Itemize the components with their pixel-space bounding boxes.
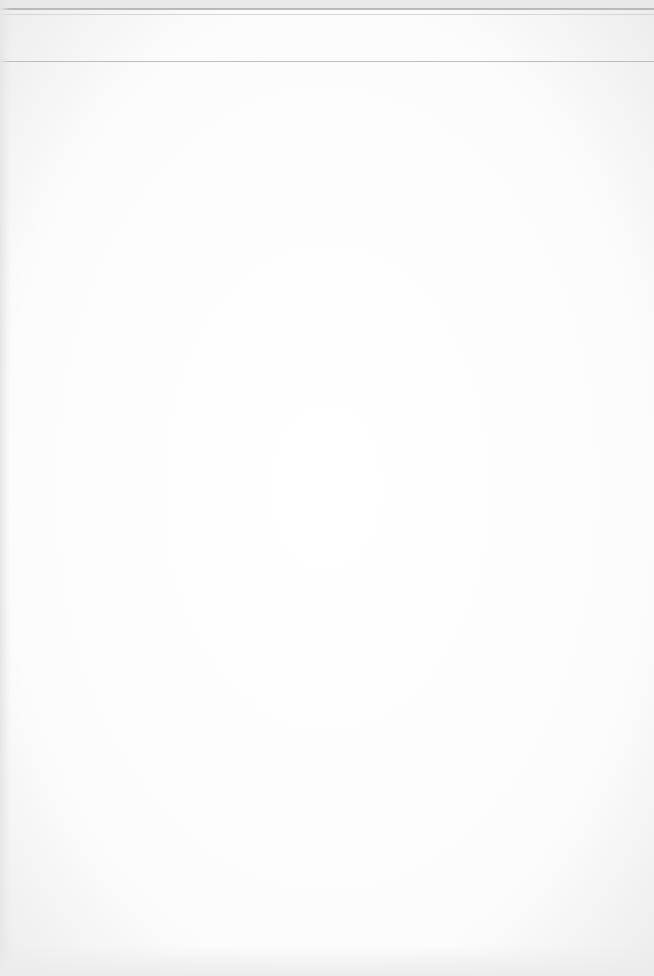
running-header [0,15,654,61]
header-bottom-rule [0,61,654,62]
header-top-rule [0,8,654,10]
left-edge-shadow [0,0,10,976]
scanned-page [0,0,654,976]
bottom-edge-shadow [0,946,654,976]
top-edge-strip [0,0,654,8]
page-body [40,80,614,936]
